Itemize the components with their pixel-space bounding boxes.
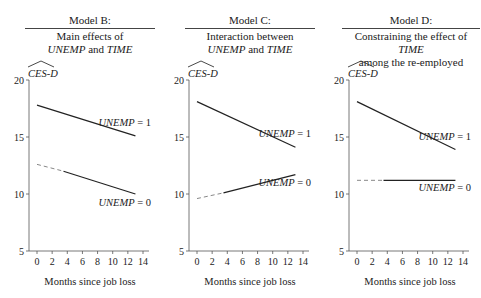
series-label-unemp0: UNEMP = 0 — [258, 177, 311, 188]
x-tick-label: 8 — [95, 256, 100, 267]
x-tick-label: 8 — [415, 256, 420, 267]
x-axis-label: Months since job loss — [204, 276, 295, 287]
y-tick-label: 10 — [334, 189, 344, 200]
x-tick-label: 14 — [458, 256, 468, 267]
series-line-unemp0-dashed — [37, 164, 64, 171]
hat-icon — [348, 61, 374, 67]
y-axis-label: CES-D — [348, 68, 378, 79]
y-tick-label: 15 — [334, 132, 344, 143]
x-tick-label: 2 — [210, 256, 215, 267]
y-tick-label: 20 — [14, 75, 24, 86]
x-tick-label: 6 — [80, 256, 85, 267]
x-tick-label: 10 — [268, 256, 278, 267]
series-label-unemp1: UNEMP = 1 — [418, 131, 471, 142]
y-tick-label: 10 — [14, 189, 24, 200]
x-tick-label: 10 — [428, 256, 438, 267]
series-line-unemp0-dashed — [197, 193, 224, 199]
y-axis-label: CES-D — [28, 68, 58, 79]
x-tick-label: 6 — [400, 256, 405, 267]
x-tick-label: 2 — [370, 256, 375, 267]
charts-canvas: 510152002468101214Months since job lossC… — [0, 0, 481, 298]
y-tick-label: 20 — [334, 75, 344, 86]
x-tick-label: 14 — [138, 256, 148, 267]
x-tick-label: 12 — [123, 256, 133, 267]
x-tick-label: 4 — [225, 256, 230, 267]
x-tick-label: 8 — [255, 256, 260, 267]
series-label-unemp1: UNEMP = 1 — [258, 128, 311, 139]
x-tick-label: 0 — [195, 256, 200, 267]
hat-icon — [28, 61, 54, 67]
x-tick-label: 4 — [65, 256, 70, 267]
x-tick-label: 14 — [298, 256, 308, 267]
y-tick-label: 5 — [19, 246, 24, 257]
y-tick-label: 20 — [174, 75, 184, 86]
x-tick-label: 0 — [355, 256, 360, 267]
series-line-unemp1 — [357, 102, 455, 150]
x-tick-label: 6 — [240, 256, 245, 267]
y-tick-label: 5 — [179, 246, 184, 257]
x-tick-label: 10 — [108, 256, 118, 267]
x-tick-label: 12 — [283, 256, 293, 267]
series-line-unemp1 — [197, 102, 295, 148]
series-label-unemp1: UNEMP = 1 — [98, 117, 151, 128]
x-tick-label: 12 — [443, 256, 453, 267]
x-axis-label: Months since job loss — [364, 276, 455, 287]
x-tick-label: 4 — [385, 256, 390, 267]
series-label-unemp0: UNEMP = 0 — [98, 197, 151, 208]
x-axis-label: Months since job loss — [44, 276, 135, 287]
series-line-unemp0 — [64, 171, 136, 194]
y-axis-label: CES-D — [188, 68, 218, 79]
series-label-unemp0: UNEMP = 0 — [418, 182, 471, 193]
x-tick-label: 0 — [35, 256, 40, 267]
y-tick-label: 15 — [14, 132, 24, 143]
y-tick-label: 10 — [174, 189, 184, 200]
y-tick-label: 5 — [339, 246, 344, 257]
x-tick-label: 2 — [50, 256, 55, 267]
hat-icon — [188, 61, 214, 67]
y-tick-label: 15 — [174, 132, 184, 143]
